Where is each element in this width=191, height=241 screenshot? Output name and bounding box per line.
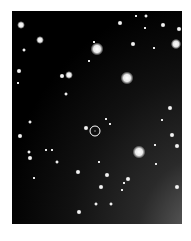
- star: [117, 20, 122, 25]
- star: [160, 22, 165, 27]
- star: [130, 41, 135, 46]
- star: [65, 71, 73, 79]
- star: [51, 149, 54, 152]
- star: [27, 155, 32, 160]
- star: [155, 163, 158, 166]
- star: [93, 41, 96, 44]
- star: [144, 14, 148, 18]
- star: [98, 161, 101, 164]
- star: [17, 21, 25, 29]
- star: [104, 172, 109, 177]
- star: [153, 47, 156, 50]
- star: [123, 182, 126, 185]
- star-chart: [12, 11, 182, 224]
- star: [17, 133, 22, 138]
- star: [64, 92, 68, 96]
- star: [45, 149, 48, 152]
- star: [83, 125, 88, 130]
- star: [109, 202, 113, 206]
- star: [144, 27, 147, 30]
- star: [176, 26, 181, 31]
- star: [135, 15, 138, 18]
- star: [167, 105, 172, 110]
- star: [94, 202, 98, 206]
- star: [88, 60, 91, 63]
- star: [98, 184, 103, 189]
- star: [154, 144, 157, 147]
- star: [17, 82, 20, 85]
- star: [121, 189, 124, 192]
- star: [171, 39, 181, 49]
- star: [55, 160, 59, 164]
- star: [36, 36, 44, 44]
- star: [121, 72, 134, 85]
- star-field-image: [12, 11, 182, 224]
- star: [27, 150, 31, 154]
- star: [125, 176, 130, 181]
- star: [109, 123, 112, 126]
- star: [59, 73, 64, 78]
- star: [133, 146, 146, 159]
- star: [161, 119, 164, 122]
- star: [22, 48, 26, 52]
- star: [28, 120, 32, 124]
- star: [33, 177, 36, 180]
- star: [75, 169, 80, 174]
- star: [105, 118, 108, 121]
- star: [174, 184, 179, 189]
- star: [76, 209, 81, 214]
- star: [174, 143, 179, 148]
- star: [169, 132, 174, 137]
- target-star: [94, 130, 96, 132]
- star: [91, 43, 104, 56]
- star: [16, 68, 21, 73]
